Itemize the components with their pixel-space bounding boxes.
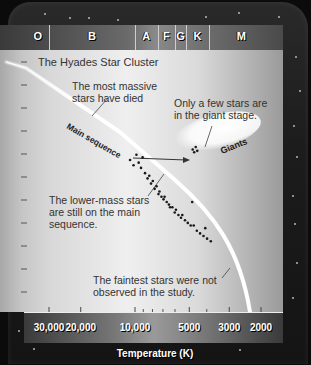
leader-line-faintest bbox=[222, 268, 230, 278]
spectral-class-a: A bbox=[142, 30, 150, 42]
spectral-divider bbox=[135, 25, 136, 50]
annotation-line: sequence. bbox=[49, 218, 149, 230]
x-tick-label: 20,000 bbox=[65, 322, 96, 333]
background-star bbox=[296, 156, 298, 158]
background-star bbox=[293, 125, 295, 127]
annotation-line: The lower-mass stars bbox=[49, 194, 149, 206]
background-star bbox=[292, 195, 294, 197]
star-point bbox=[165, 201, 168, 204]
star-point bbox=[177, 214, 180, 217]
star-point bbox=[175, 209, 178, 212]
annotation-massive: The most massive stars have died bbox=[72, 80, 157, 104]
background-star bbox=[295, 56, 297, 58]
background-star bbox=[33, 348, 35, 350]
star-point bbox=[146, 177, 149, 180]
star-point bbox=[157, 193, 160, 196]
star-point bbox=[191, 201, 194, 204]
spectral-divider bbox=[158, 25, 159, 50]
star-point bbox=[152, 180, 155, 183]
background-star bbox=[88, 17, 90, 19]
annotation-line: The most massive bbox=[72, 80, 157, 92]
star-point bbox=[158, 190, 161, 193]
annotation-line: Only a few stars are bbox=[174, 97, 267, 109]
star-point bbox=[169, 206, 172, 209]
star-point bbox=[187, 222, 190, 225]
star-point bbox=[160, 195, 163, 198]
star-point bbox=[150, 182, 153, 185]
annotation-faintest: The faintest stars were not observed in … bbox=[93, 274, 217, 298]
star-point bbox=[168, 203, 171, 206]
star-point bbox=[163, 195, 166, 198]
star-point bbox=[153, 188, 156, 191]
star-point bbox=[184, 219, 187, 222]
star-point bbox=[132, 164, 135, 167]
star-point bbox=[144, 172, 147, 175]
spectral-divider bbox=[175, 25, 176, 50]
spectral-divider bbox=[186, 25, 187, 50]
star-point bbox=[129, 159, 132, 162]
background-star bbox=[294, 223, 296, 225]
star-point bbox=[210, 240, 213, 243]
background-star bbox=[278, 16, 280, 18]
star-point bbox=[137, 161, 140, 164]
giant-star-point bbox=[196, 150, 199, 153]
background-star bbox=[205, 16, 207, 18]
background-star bbox=[299, 90, 301, 92]
star-point bbox=[199, 232, 202, 235]
giant-star-point bbox=[194, 146, 197, 149]
star-point bbox=[181, 214, 184, 217]
star-point bbox=[148, 174, 151, 177]
annotation-line: observed in the study. bbox=[93, 286, 217, 298]
star-point bbox=[202, 235, 205, 238]
background-star bbox=[18, 330, 20, 332]
background-star bbox=[296, 262, 298, 264]
spectral-class-k: K bbox=[193, 30, 201, 42]
star-point bbox=[204, 227, 207, 230]
spectral-class-bar: OBAFGKM bbox=[0, 25, 283, 50]
star-point bbox=[192, 224, 195, 227]
annotation-lower-mass: The lower-mass stars are still on the ma… bbox=[49, 194, 149, 230]
star-point bbox=[171, 206, 174, 209]
giant-star-point bbox=[193, 151, 196, 154]
background-star bbox=[238, 12, 240, 14]
annotation-line: are still on the main bbox=[49, 206, 149, 218]
background-star bbox=[117, 19, 119, 21]
annotation-giants: Only a few stars are in the giant stage. bbox=[174, 97, 267, 121]
star-point bbox=[206, 237, 209, 240]
background-star bbox=[69, 17, 71, 19]
star-point bbox=[162, 198, 165, 201]
background-star bbox=[239, 349, 241, 351]
giant-star-point bbox=[191, 148, 194, 151]
x-axis-title: Temperature (K) bbox=[117, 348, 194, 359]
evolution-arrowhead bbox=[183, 157, 190, 163]
spectral-class-o: O bbox=[33, 30, 42, 42]
x-axis-bar: 30,00020,00010,000500030002000 bbox=[24, 312, 283, 343]
background-star bbox=[44, 13, 46, 15]
spectral-class-g: G bbox=[176, 30, 185, 42]
plot-area: Main sequenceGiants The Hyades Star Clus… bbox=[0, 50, 283, 312]
star-point bbox=[180, 216, 183, 219]
star-point bbox=[140, 167, 143, 170]
spectral-divider bbox=[49, 25, 50, 50]
x-tick-label: 5000 bbox=[178, 322, 200, 333]
annotation-line: The faintest stars were not bbox=[93, 274, 217, 286]
x-tick-label: 10,000 bbox=[120, 322, 151, 333]
star-point bbox=[135, 154, 138, 157]
spectral-class-f: F bbox=[163, 30, 170, 42]
x-tick-label: 2000 bbox=[250, 322, 272, 333]
star-point bbox=[173, 211, 176, 214]
annotation-line: stars have died bbox=[72, 92, 157, 104]
spectral-class-b: B bbox=[88, 30, 96, 42]
x-tick-label: 3000 bbox=[218, 322, 240, 333]
chart-title: The Hyades Star Cluster bbox=[38, 56, 158, 68]
background-star bbox=[292, 297, 294, 299]
evolution-arrow bbox=[133, 158, 186, 160]
annotation-line: in the giant stage. bbox=[174, 109, 267, 121]
spectral-divider bbox=[209, 25, 210, 50]
star-point bbox=[155, 185, 158, 188]
star-point bbox=[196, 229, 199, 232]
star-point bbox=[189, 224, 192, 227]
x-tick-label: 30,000 bbox=[34, 322, 65, 333]
star-point bbox=[141, 156, 144, 159]
spectral-class-m: M bbox=[237, 30, 246, 42]
